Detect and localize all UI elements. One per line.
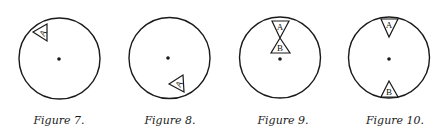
triangle-label: A — [386, 20, 393, 30]
figure-8-triangle-a: A — [169, 75, 185, 92]
figure-10: A B Figure 10. — [349, 17, 430, 127]
figure-7-caption: Figure 7. — [32, 114, 84, 127]
figure-8-caption: Figure 8. — [143, 114, 195, 127]
figure-10-triangle-b: B — [381, 81, 398, 97]
triangle-label: A — [277, 22, 284, 32]
figure-7-center-dot — [57, 57, 61, 61]
figure-8-center-dot — [166, 56, 170, 60]
figure-10-caption: Figure 10. — [365, 114, 424, 127]
figure-9-triangle-a: A — [272, 21, 289, 38]
triangle-label: B — [386, 87, 392, 97]
figures-diagram: A Figure 7. A Figure 8. A B Figure 9. — [0, 0, 447, 136]
figure-7: A Figure 7. — [19, 18, 100, 127]
figure-10-center-dot — [387, 57, 391, 61]
triangle-label: B — [277, 43, 283, 53]
figure-9: A B Figure 9. — [240, 17, 321, 127]
figure-10-triangle-a: A — [381, 19, 398, 37]
figure-9-caption: Figure 9. — [256, 114, 308, 127]
figure-9-triangle-b: B — [271, 38, 290, 53]
figure-8: A Figure 8. — [129, 18, 210, 128]
figure-9-center-dot — [278, 57, 282, 61]
